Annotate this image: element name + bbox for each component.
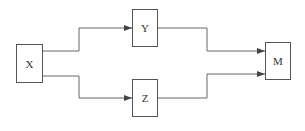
node-m-label: M — [273, 55, 283, 67]
edge-x-to-z — [42, 76, 132, 98]
edge-y-to-m — [157, 28, 265, 51]
node-x-label: X — [26, 58, 34, 70]
node-z-label: Z — [142, 92, 149, 104]
node-y: Y — [132, 9, 158, 47]
node-x: X — [16, 44, 43, 83]
edge-x-to-y — [42, 28, 132, 51]
node-y-label: Y — [141, 22, 149, 34]
edge-z-to-m — [157, 74, 265, 98]
node-z: Z — [132, 79, 158, 117]
node-m: M — [265, 42, 291, 80]
